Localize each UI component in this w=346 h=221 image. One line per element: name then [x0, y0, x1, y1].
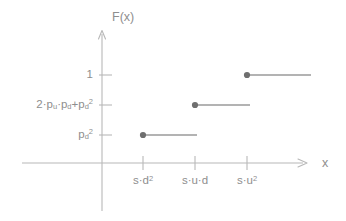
- x-tick-label-1-text: s·d2: [133, 174, 153, 186]
- x-axis-title: x: [322, 157, 328, 170]
- y-tick-label-1: 1: [0, 69, 93, 81]
- x-tick-label-2: s·u·d: [182, 175, 208, 187]
- y-axis-title: F(x): [112, 11, 134, 24]
- step-marker-1: [140, 132, 146, 138]
- y-tick-label-3: pd2: [0, 129, 93, 142]
- y-tick-label-3-text: pd2: [78, 128, 93, 140]
- x-tick-label-2-text: s·u·d: [182, 174, 208, 186]
- step-marker-3: [244, 72, 250, 78]
- y-tick-label-1-text: 1: [87, 68, 93, 80]
- step-function-figure: F(x) x 1 2·pu·pd+pd2 pd2 s·d2 s·u·d s·u2: [0, 0, 346, 221]
- x-tick-label-3: s·u2: [237, 175, 257, 187]
- x-tick-label-1: s·d2: [133, 175, 153, 187]
- y-axis-title-text: F(x): [112, 10, 134, 24]
- y-tick-label-2-text: 2·pu·pd+pd2: [36, 98, 93, 110]
- step-marker-2: [192, 102, 198, 108]
- x-axis-title-text: x: [322, 156, 328, 170]
- x-tick-label-3-text: s·u2: [237, 174, 257, 186]
- y-tick-label-2: 2·pu·pd+pd2: [0, 99, 93, 112]
